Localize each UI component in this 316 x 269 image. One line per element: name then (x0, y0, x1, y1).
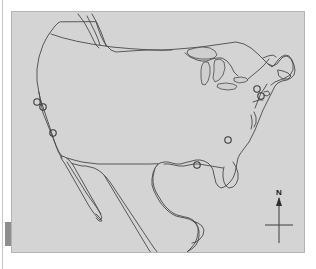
compass-north-arrowhead (276, 197, 282, 206)
mexico-mainland (62, 157, 198, 253)
gaspe-peninsula (263, 55, 276, 58)
compass-north-label: N (276, 188, 282, 197)
figure-container: N (0, 0, 316, 269)
map-panel: N (11, 11, 305, 253)
map-graphic: N (12, 12, 305, 253)
page-gutter-rule (2, 0, 3, 269)
site-marker-gulf-coast[interactable] (194, 162, 200, 168)
site-marker-west-coast-a[interactable] (34, 99, 40, 105)
compass-rose: N (265, 188, 293, 243)
